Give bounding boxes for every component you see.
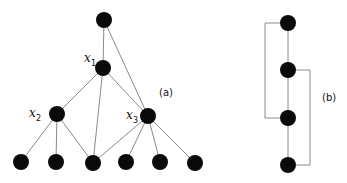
label-x1-sub: 1 — [91, 59, 96, 68]
label-x3-var: x — [126, 108, 133, 122]
label-x1-var: x — [84, 51, 91, 65]
node-root — [96, 12, 112, 28]
node-b2 — [280, 62, 296, 78]
panel-a-label: (a) — [159, 87, 173, 98]
node-leaf-4 — [118, 154, 134, 170]
edge-x1-x2 — [57, 68, 103, 114]
diagram-canvas: x 1 x 2 x 3 (a) (b) — [0, 0, 347, 183]
node-b4 — [280, 157, 296, 173]
panel-b-label: (b) — [322, 92, 336, 103]
label-x2-var: x — [29, 106, 36, 120]
panel-b-edges — [265, 23, 310, 165]
panel-a-nodes — [13, 12, 203, 171]
node-leaf-1 — [13, 154, 29, 170]
edge-x1-l3 — [93, 68, 103, 163]
node-leaf-5 — [152, 154, 168, 170]
node-b3 — [280, 110, 296, 126]
node-x2 — [49, 106, 65, 122]
node-x1 — [95, 60, 111, 76]
label-x2-sub: 2 — [36, 114, 41, 123]
node-b1 — [280, 15, 296, 31]
edge-x3-l3 — [93, 116, 148, 163]
node-x3 — [140, 108, 156, 124]
edge-x2-l3 — [57, 114, 93, 163]
node-leaf-6 — [187, 155, 203, 171]
node-leaf-2 — [48, 154, 64, 170]
node-leaf-3 — [85, 155, 101, 171]
label-x3-sub: 3 — [133, 116, 138, 125]
